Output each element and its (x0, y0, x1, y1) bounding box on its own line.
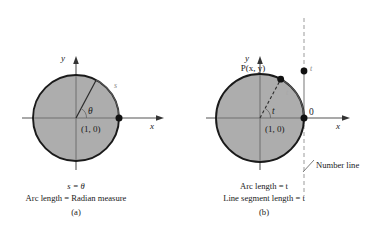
figure-root: y x θ s (1, 0) s = θ Arc length = Radian… (0, 0, 372, 232)
panel-a-panel-label: (a) (71, 207, 81, 217)
panel-b-caption-line1: Arc length = t (240, 181, 289, 191)
panel-a-x-axis-label: x (149, 121, 154, 131)
panel-b-number-line-label: Number line (316, 160, 359, 170)
panel-a-point-label: (1, 0) (81, 124, 101, 134)
panel-a-arc-label: s (114, 81, 117, 90)
panel-b-point-p-label: P(x, y) (241, 63, 266, 73)
panel-b-x-axis-label: x (335, 121, 340, 131)
panel-a-point-1-0 (116, 115, 123, 122)
panel-b-point-p (277, 76, 284, 83)
panel-b-point-label: (1, 0) (265, 124, 285, 134)
panel-b-angle-label: t (272, 106, 275, 116)
panel-b-panel-label: (b) (259, 207, 269, 217)
panel-b-number-line-leader (303, 160, 314, 172)
panel-a-y-axis-label: y (60, 53, 65, 63)
panel-b-point-t-on-number-line (301, 68, 308, 75)
trigonometry-figure: y x θ s (1, 0) s = θ Arc length = Radian… (0, 0, 372, 232)
panel-a-angle-label: θ (88, 106, 93, 116)
panel-a: y x θ s (1, 0) s = θ Arc length = Radian… (22, 53, 164, 217)
panel-b: y x t t P(x, y) (1, 0) 0 t Number line A… (206, 18, 359, 217)
panel-a-caption-line2: Arc length = Radian measure (26, 193, 127, 203)
panel-b-caption-line2: Line segment length = t (223, 193, 305, 203)
panel-b-t-label: t (310, 64, 313, 73)
panel-b-y-axis-label: y (244, 53, 249, 63)
panel-a-caption-line1: s = θ (67, 181, 85, 191)
panel-b-point-1-0 (301, 115, 308, 122)
panel-b-zero-label: 0 (309, 107, 314, 117)
